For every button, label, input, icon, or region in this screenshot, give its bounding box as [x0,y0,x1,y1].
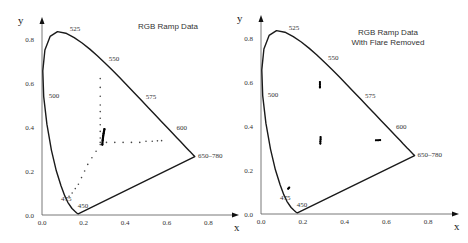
x-tick-label: 0.0 [257,218,266,226]
chart-title: RGB Ramp Data [358,28,419,37]
data-point [151,141,153,143]
x-tick-label: 0.0 [38,219,47,227]
y-tick-label: 0.6 [25,80,34,88]
x-tick-label: 0.8 [204,219,213,227]
wavelength-label: 600 [176,124,187,132]
wavelength-label: 450 [297,201,308,209]
data-point [81,177,83,179]
x-tick-label: 0.2 [79,219,88,227]
y-tick-label: 0.0 [244,211,253,219]
chart-panel-right: xy0.00.20.40.60.80.00.20.40.60.852555057… [237,12,460,232]
series-green-ramp [99,78,101,143]
x-axis-arrow-icon [232,213,239,218]
x-axis-label: x [234,221,240,233]
chromaticity-figure: xy0.00.20.40.60.80.00.20.40.60.852555057… [0,0,468,243]
data-point [68,196,70,198]
y-axis-label: y [18,14,24,26]
wavelength-label: 450 [78,202,89,210]
data-point [91,157,93,159]
y-axis-arrow-icon [259,15,264,22]
x-tick-label: 0.6 [162,219,171,227]
series-neutral-ramp [101,128,105,146]
series-blue-ramp [68,144,101,197]
y-tick-label: 0.0 [25,212,34,220]
y-tick-label: 0.2 [244,167,253,175]
data-point [114,142,116,144]
data-point [74,188,76,190]
data-point [99,142,101,144]
data-point [99,137,101,139]
data-point [139,142,141,144]
series-green-ramp [319,81,321,89]
data-point [78,183,80,185]
wavelength-label: 475 [61,195,72,203]
y-tick-label: 0.8 [25,36,34,44]
x-tick-label: 0.2 [298,218,307,226]
data-point [131,142,133,144]
data-point [95,150,97,152]
x-tick-label: 0.6 [382,218,391,226]
series-neutral-ramp [319,136,321,145]
chart-title: With Flare Removed [352,38,425,47]
data-point [99,111,101,113]
y-tick-label: 0.8 [244,35,253,43]
data-point [71,192,73,194]
series-blue-ramp [287,187,290,190]
data-point [99,144,101,146]
wavelength-label: 550 [109,55,120,63]
x-axis-label: x [454,220,460,232]
wavelength-label: 575 [365,92,376,100]
chart-panel-left: xy0.00.20.40.60.80.00.20.40.60.852555057… [18,14,240,233]
wavelength-label: 550 [328,54,339,62]
wavelength-label: 575 [146,93,157,101]
data-point [99,131,101,133]
data-point [106,142,108,144]
wavelength-label: 650–780 [418,151,443,159]
wavelength-label: 500 [268,91,279,99]
data-point [145,141,147,143]
data-point [99,95,101,97]
y-tick-label: 0.2 [25,168,34,176]
y-tick-label: 0.4 [25,124,34,132]
wavelength-label: 500 [49,92,60,100]
series-red-ramp [106,140,163,143]
wavelength-label: 525 [70,25,81,33]
data-point [157,140,159,142]
wavelength-label: 650–780 [198,152,223,160]
y-tick-label: 0.4 [244,123,253,131]
data-cluster [102,129,104,144]
x-tick-label: 0.8 [424,218,433,226]
data-point [99,78,101,80]
wavelength-label: 600 [396,123,407,131]
y-tick-label: 0.6 [244,79,253,87]
data-cluster [288,188,289,189]
data-point [99,104,101,106]
data-point [99,87,101,89]
y-axis-label: y [237,12,243,24]
x-tick-label: 0.4 [340,218,349,226]
y-axis-arrow-icon [40,17,45,24]
series-red-ramp [375,139,381,141]
data-point [161,140,163,142]
data-point [87,164,89,166]
wavelength-label: 475 [280,194,291,202]
data-point [99,124,101,126]
data-point [99,117,101,119]
wavelength-label: 525 [289,24,300,32]
chart-title: RGB Ramp Data [138,22,199,31]
x-tick-label: 0.4 [121,219,130,227]
data-point [122,142,124,144]
x-axis-arrow-icon [452,212,459,217]
data-point [84,170,86,172]
